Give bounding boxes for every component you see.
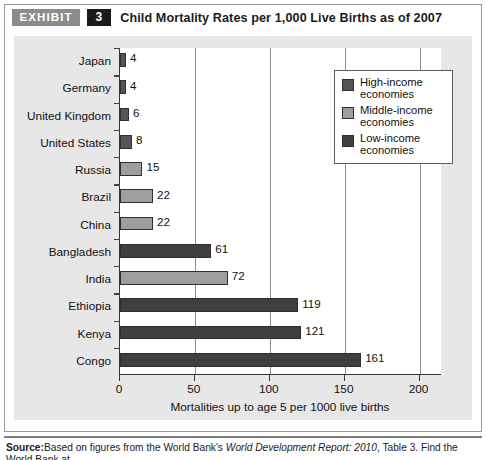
source-text-part1: Based on figures from the World Bank's (44, 442, 226, 453)
legend-item-low-income: Low-income economies (342, 133, 446, 156)
plot-area: 44681522226172119121161 High-income econ… (119, 48, 441, 375)
exhibit-badge: EXHIBIT (12, 9, 80, 26)
category-label: Kenya (78, 328, 111, 340)
bar-value-label: 119 (302, 297, 320, 310)
x-tick-label-100: 100 (259, 382, 279, 396)
exhibit-number-badge: 3 (87, 9, 112, 26)
legend-label-low-income: Low-income economies (360, 133, 420, 156)
y-tick (114, 266, 120, 267)
x-tick-label-50: 50 (187, 382, 200, 396)
x-tick-100 (269, 375, 270, 381)
bar-value-label: 6 (133, 106, 139, 119)
bar (120, 162, 142, 176)
legend-label-middle-income: Middle-income economies (360, 105, 433, 128)
bar (120, 80, 126, 94)
category-label: Japan (79, 55, 111, 67)
category-label: United Kingdom (27, 110, 111, 122)
category-label: Congo (76, 355, 111, 367)
bar (120, 108, 129, 122)
y-tick (114, 239, 120, 240)
footer-divider (4, 436, 482, 438)
y-tick (114, 212, 120, 213)
bar-value-label: 8 (136, 133, 142, 146)
y-tick (114, 184, 120, 185)
y-tick (114, 348, 120, 349)
bar-row: 119 (120, 293, 441, 320)
category-label: India (85, 273, 111, 285)
bar-value-label: 61 (215, 242, 228, 255)
bar-value-label: 72 (232, 269, 245, 282)
legend-item-high-income: High-income economies (342, 77, 446, 100)
x-tick-label-150: 150 (334, 382, 354, 396)
category-label: Russia (75, 164, 111, 176)
bar-value-label: 22 (157, 188, 170, 201)
y-tick (114, 321, 120, 322)
x-tick-label-200: 200 (409, 382, 429, 396)
source-label: Source: (6, 442, 44, 453)
chart-legend: High-income economies Middle-income econ… (334, 70, 453, 164)
bar-row: 22 (120, 212, 441, 239)
page-title: Child Mortality Rates per 1,000 Live Bir… (120, 11, 442, 25)
x-tick-label-0: 0 (116, 382, 123, 396)
bar (120, 326, 301, 340)
legend-label-high-income: High-income economies (360, 77, 423, 100)
x-tick-150 (344, 375, 345, 381)
y-tick (114, 293, 120, 294)
bar (120, 244, 211, 258)
x-tick-200 (419, 375, 420, 381)
y-tick (114, 75, 120, 76)
bar-row: 22 (120, 184, 441, 211)
chart-panel: JapanGermanyUnited KingdomUnited StatesR… (14, 36, 472, 420)
exhibit-page: EXHIBIT 3 Child Mortality Rates per 1,00… (0, 0, 486, 460)
source-footer: Source:Based on figures from the World B… (4, 436, 482, 460)
source-text: Source:Based on figures from the World B… (4, 442, 482, 460)
category-axis-labels: JapanGermanyUnited KingdomUnited StatesR… (14, 48, 115, 375)
source-report-title: World Development Report: 2010 (226, 442, 377, 453)
bar (120, 353, 361, 367)
y-tick (114, 157, 120, 158)
y-tick (114, 130, 120, 131)
x-tick-0 (119, 375, 120, 381)
bar-row: 61 (120, 239, 441, 266)
bar-value-label: 4 (130, 79, 136, 92)
category-label: Germany (62, 82, 111, 94)
bar-row: 161 (120, 348, 441, 375)
bar (120, 53, 126, 67)
bar-row: 121 (120, 321, 441, 348)
bar-value-label: 121 (305, 324, 324, 337)
bar-value-label: 15 (146, 160, 159, 173)
y-tick (114, 48, 120, 49)
category-label: China (80, 219, 111, 231)
legend-swatch-middle-income (342, 107, 354, 119)
legend-item-middle-income: Middle-income economies (342, 105, 446, 128)
legend-swatch-low-income (342, 135, 354, 147)
x-tick-50 (194, 375, 195, 381)
legend-swatch-high-income (342, 79, 354, 91)
y-tick (114, 103, 120, 104)
bar-value-label: 161 (365, 351, 384, 364)
category-label: Brazil (82, 191, 112, 203)
bar (120, 189, 153, 203)
category-label: United States (40, 137, 111, 149)
bar (120, 298, 298, 312)
bar (120, 217, 153, 231)
bar-value-label: 4 (130, 51, 136, 64)
x-axis-tick-labels: 050100150200 (119, 382, 449, 398)
bar-value-label: 22 (157, 215, 170, 228)
exhibit-header: EXHIBIT 3 Child Mortality Rates per 1,00… (6, 6, 481, 30)
category-label: Bangladesh (49, 246, 111, 258)
category-label: Ethiopia (68, 300, 111, 312)
bar (120, 271, 228, 285)
bar (120, 135, 132, 149)
x-axis-title: Mortalities up to age 5 per 1000 live bi… (119, 400, 441, 414)
bar-row: 72 (120, 266, 441, 293)
